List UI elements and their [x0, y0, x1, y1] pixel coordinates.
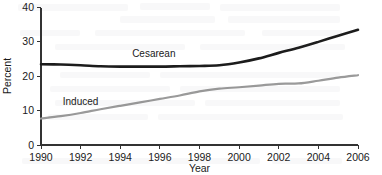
- x-tick-label: 1992: [69, 151, 93, 163]
- x-axis-ticks: 199019921994199619982000200220042006: [29, 145, 370, 163]
- x-axis-title: Year: [189, 162, 211, 174]
- y-axis-title: Percent: [1, 58, 13, 94]
- y-axis-ticks: 010203040: [22, 1, 41, 151]
- x-tick-label: 2002: [267, 151, 291, 163]
- x-tick-label: 2006: [346, 151, 370, 163]
- y-tick-label: 40: [22, 1, 34, 13]
- x-tick-label: 2004: [307, 151, 331, 163]
- y-tick-label: 10: [22, 104, 34, 116]
- x-tick-label: 2000: [227, 151, 251, 163]
- chart-figure: 010203040 199019921994199619982000200220…: [0, 0, 382, 175]
- series-line-cesarean: [41, 30, 358, 67]
- x-tick-label: 1994: [109, 151, 133, 163]
- x-tick-label: 1996: [148, 151, 172, 163]
- series-label-induced: Induced: [63, 96, 99, 107]
- y-tick-label: 20: [22, 70, 34, 82]
- y-tick-label: 0: [28, 139, 34, 151]
- y-tick-label: 30: [22, 35, 34, 47]
- x-tick-label: 1990: [29, 151, 53, 163]
- x-tick-label: 1998: [188, 151, 212, 163]
- series-label-cesarean: Cesarean: [132, 48, 175, 59]
- line-chart: 010203040 199019921994199619982000200220…: [0, 0, 382, 175]
